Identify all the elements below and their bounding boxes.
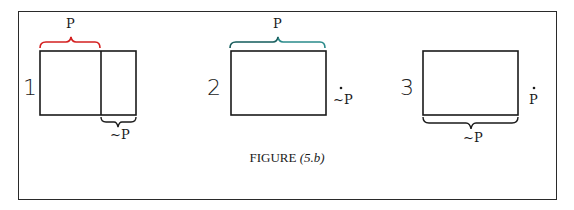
diagram-canvas xyxy=(0,0,574,210)
point-dot-panel-3 xyxy=(533,87,536,90)
label-p-panel-2: P xyxy=(273,16,282,31)
rectangle-panel-2 xyxy=(231,51,326,115)
label-p-panel-3: P xyxy=(529,92,538,107)
rectangle-panel-3 xyxy=(423,51,518,115)
panel-number-1: 1 xyxy=(23,75,37,100)
label-not-p-panel-1: ~P xyxy=(110,127,130,142)
point-dot-panel-2 xyxy=(340,87,343,90)
brace-not-p-panel-1 xyxy=(101,117,136,127)
caption-main: FIGURE xyxy=(249,150,296,165)
label-not-p-panel-2: ~P xyxy=(333,92,353,107)
panel-number-2: 2 xyxy=(207,75,221,100)
caption-number: (5.b) xyxy=(300,150,325,165)
label-p-panel-1: P xyxy=(66,16,75,31)
label-not-p-panel-3: ~P xyxy=(463,130,483,145)
panel-3 xyxy=(423,51,535,129)
panel-number-3: 3 xyxy=(400,75,414,100)
figure-caption: FIGURE (5.b) xyxy=(0,150,574,166)
panel-1 xyxy=(40,37,136,127)
brace-not-p-panel-3 xyxy=(423,117,518,129)
brace-p-panel-1 xyxy=(40,37,100,48)
rectangle-panel-1 xyxy=(40,51,136,115)
panel-2 xyxy=(230,37,342,115)
